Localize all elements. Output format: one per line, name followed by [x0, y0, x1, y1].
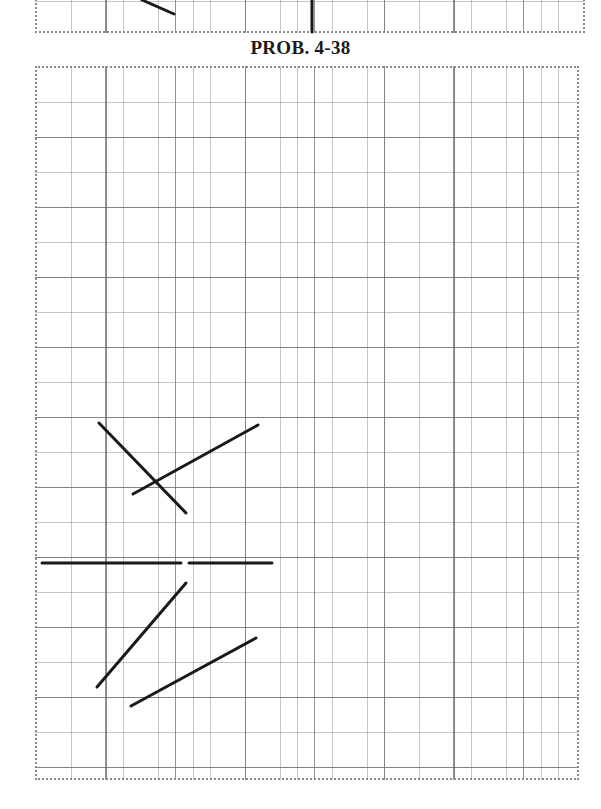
- line-b: [133, 425, 258, 494]
- line-c: [97, 583, 186, 687]
- line-drawings: [0, 0, 601, 809]
- line-d: [131, 638, 256, 706]
- previous-problem-diagonal: [142, 0, 174, 14]
- line-a: [99, 423, 186, 513]
